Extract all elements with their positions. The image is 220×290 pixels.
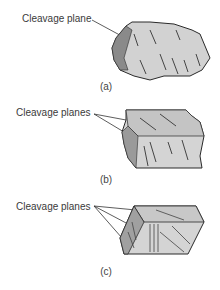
caption-b: (b) <box>91 174 121 185</box>
caption-c: (c) <box>91 266 121 277</box>
figure-c: Cleavage planes (c) <box>0 192 220 290</box>
figure-a: Cleavage plane (a) <box>0 0 220 96</box>
callout-label-c: Cleavage planes <box>16 201 91 212</box>
callout-label-b: Cleavage planes <box>16 107 91 118</box>
figure-b: Cleavage planes (b) <box>0 96 220 192</box>
caption-a: (a) <box>91 81 121 92</box>
pointer-line <box>94 206 122 238</box>
callout-label-a: Cleavage plane <box>22 13 92 24</box>
